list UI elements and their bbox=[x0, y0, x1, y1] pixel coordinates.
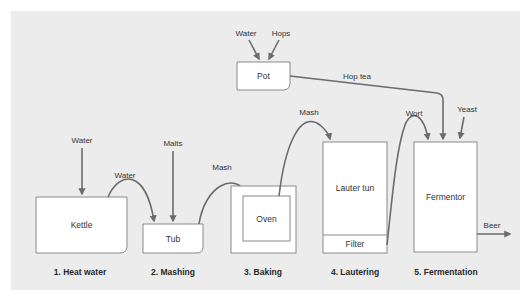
stage-label-2: 2. Mashing bbox=[151, 267, 195, 277]
oven-label: Oven bbox=[256, 214, 277, 224]
tub-malts-input-label: Malts bbox=[163, 139, 182, 148]
lauter-tun-label: Lauter tun bbox=[336, 183, 375, 193]
stage-label-5: 5. Fermentation bbox=[414, 267, 477, 277]
fermentor-label: Fermentor bbox=[426, 192, 465, 202]
tub-vessel: Tub bbox=[143, 224, 203, 253]
oven-vessel: Oven bbox=[231, 186, 296, 253]
water-flow-label: Water bbox=[114, 171, 135, 180]
brewing-process-diagram: Pot Water Hops Hop tea Kettle Water Wate… bbox=[0, 0, 531, 304]
fermentor-yeast-input-label: Yeast bbox=[457, 105, 478, 114]
mash-flow-label-2: Mash bbox=[299, 108, 319, 117]
pot-label: Pot bbox=[257, 71, 270, 81]
kettle-label: Kettle bbox=[71, 220, 93, 230]
stage-label-1: 1. Heat water bbox=[54, 267, 107, 277]
beer-flow-label: Beer bbox=[484, 221, 501, 230]
stage-label-4: 4. Lautering bbox=[331, 267, 379, 277]
pot-hops-input-label: Hops bbox=[272, 29, 291, 38]
mash-flow-label-1: Mash bbox=[212, 163, 232, 172]
wort-flow-label: Wort bbox=[406, 109, 424, 118]
hop-tea-flow-label: Hop tea bbox=[343, 72, 372, 81]
kettle-vessel: Kettle bbox=[36, 197, 127, 253]
tub-label: Tub bbox=[166, 234, 181, 244]
stage-label-3: 3. Baking bbox=[244, 267, 282, 277]
fermentor-vessel: Fermentor bbox=[414, 142, 477, 252]
pot-vessel: Pot bbox=[237, 62, 290, 90]
filter-label: Filter bbox=[346, 239, 365, 249]
kettle-water-input-label: Water bbox=[71, 136, 92, 145]
lauter-tun-vessel: Lauter tun Filter bbox=[323, 142, 387, 253]
pot-water-input-label: Water bbox=[235, 29, 256, 38]
